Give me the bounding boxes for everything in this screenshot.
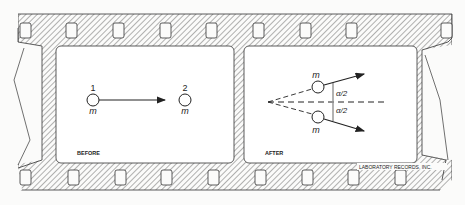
- before-label: BEFORE: [77, 150, 100, 156]
- ball-bottom: [312, 111, 324, 123]
- film-strip-diagram: 1 m 2 m BEFORE m m α/2 α/2 AFTER LABORAT…: [0, 0, 465, 205]
- ball-1-number: 1: [90, 83, 95, 93]
- angle-top: α/2: [336, 89, 348, 98]
- ball-2-mass: m: [181, 106, 189, 116]
- ball-1-mass: m: [89, 106, 97, 116]
- credit-text: LABORATORY RECORDS, INC.: [359, 164, 432, 170]
- ball-top-mass: m: [312, 70, 320, 80]
- ball-2: [179, 94, 191, 106]
- ball-1: [87, 94, 99, 106]
- angle-bottom: α/2: [336, 106, 348, 115]
- ball-top: [312, 81, 324, 93]
- frame-before: 1 m 2 m BEFORE: [56, 46, 234, 163]
- after-label: AFTER: [265, 150, 283, 156]
- frame-after: m m α/2 α/2 AFTER: [244, 46, 417, 163]
- ball-bottom-mass: m: [312, 125, 320, 135]
- ball-2-number: 2: [182, 83, 187, 93]
- sprocket-holes-bottom: [20, 170, 406, 185]
